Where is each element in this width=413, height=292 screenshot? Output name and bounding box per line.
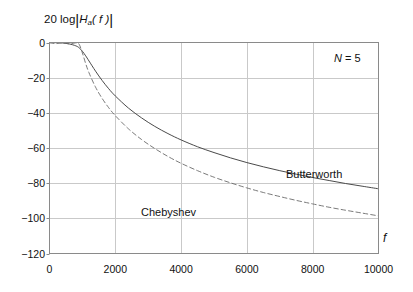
order-annotation: N = 5 [334, 52, 361, 64]
x-tick-label: 4000 [169, 264, 192, 275]
order-symbol: N [334, 52, 342, 64]
filter-response-chart: 20 log|Ha( f )| 0−20−40−60−80−100−120 02… [0, 0, 413, 292]
x-tick-label: 10000 [364, 264, 393, 275]
x-tick-label: 6000 [235, 264, 258, 275]
x-tick-label: 2000 [104, 264, 127, 275]
order-value: = 5 [345, 52, 361, 64]
x-tick-label: 8000 [301, 264, 324, 275]
x-axis-label: f [383, 232, 386, 244]
x-tick-label: 0 [47, 264, 53, 275]
x-axis-tick-labels: 0200040006000800010000 [0, 0, 413, 292]
butterworth-curve-label: Butterworth [286, 168, 342, 180]
chebyshev-curve-label: Chebyshev [141, 206, 196, 218]
